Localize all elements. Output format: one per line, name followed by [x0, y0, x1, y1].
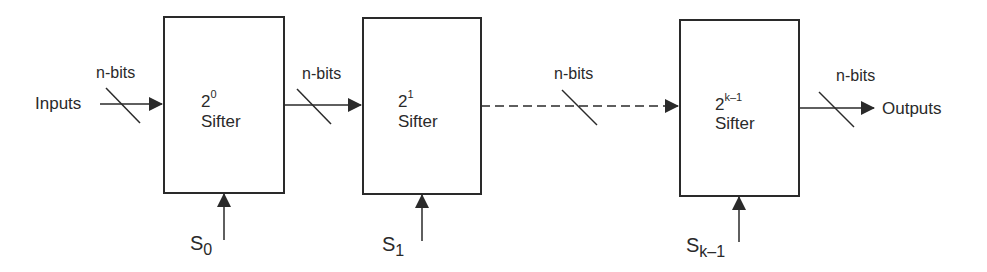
outputs-label: Outputs: [882, 99, 942, 118]
stage-name: Sifter: [201, 112, 241, 131]
sifter-box: [680, 20, 799, 196]
select-signal-label: S1: [382, 233, 404, 259]
bus-slash-icon: [562, 90, 597, 125]
inputs-label: Inputs: [35, 94, 81, 113]
select-signal-label: S0: [190, 232, 212, 258]
sifter-box: [363, 18, 481, 194]
bus-width-label: n-bits: [96, 64, 135, 81]
stage-name: Sifter: [715, 114, 755, 133]
bus-width-label: n-bits: [836, 67, 875, 84]
stage-name: Sifter: [398, 112, 438, 131]
sifter-stage-k-minus-1: 2k–1 Sifter Sk–1: [680, 20, 799, 260]
bus-slash-icon: [106, 88, 140, 123]
bus-slash-icon: [819, 92, 854, 127]
sifter-stage-0: 20 Sifter S0: [164, 17, 284, 258]
bus-slash-icon: [297, 89, 331, 124]
sifter-cascade-diagram: Inputs n-bits 20 Sifter S0 n-bits 21 Sif…: [0, 0, 987, 272]
sifter-box: [164, 17, 284, 193]
select-signal-label: Sk–1: [686, 234, 725, 260]
bus-width-label: n-bits: [302, 65, 341, 82]
sifter-stage-1: 21 Sifter S1: [363, 18, 481, 259]
bus-width-label: n-bits: [554, 65, 593, 82]
